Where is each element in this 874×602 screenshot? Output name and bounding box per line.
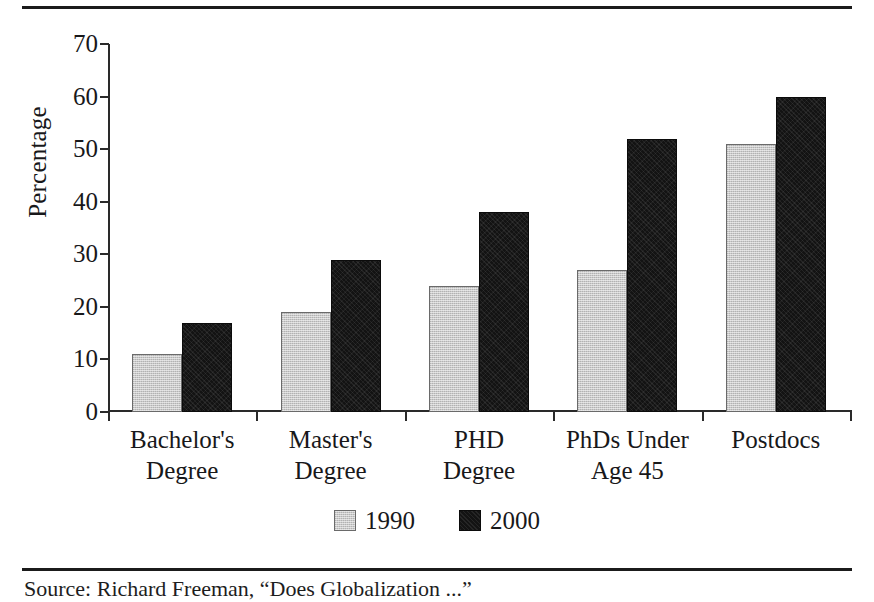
x-axis-category-label: PhDs UnderAge 45: [553, 424, 701, 486]
bottom-horizontal-rule: [22, 568, 852, 571]
source-caption: Source: Richard Freeman, “Does Globaliza…: [24, 576, 854, 602]
x-axis-category-label: Bachelor'sDegree: [108, 424, 256, 486]
category-label-line2: Degree: [108, 455, 256, 486]
category-label-line2: Degree: [256, 455, 404, 486]
category-label-line1: Bachelor's: [108, 424, 256, 455]
y-axis-tick-label: 10: [54, 346, 98, 371]
x-axis-tick-mark: [256, 412, 258, 421]
x-axis-tick-mark: [405, 412, 407, 421]
bar-2000-2: [331, 260, 381, 412]
y-axis-tick-label: 0: [54, 399, 98, 424]
bar-1990-2: [281, 312, 331, 412]
y-axis-tick-label: 20: [54, 294, 98, 319]
category-label-line1: Master's: [256, 424, 404, 455]
y-axis-tick-label: 60: [54, 84, 98, 109]
black-swatch-icon: [459, 510, 481, 531]
category-label-line1: Postdocs: [702, 424, 850, 455]
y-axis-tick-label: 70: [54, 31, 98, 56]
bar-2000-3: [479, 212, 529, 412]
y-axis-tick-label: 40: [54, 189, 98, 214]
bar-2000-4: [627, 139, 677, 412]
category-label-line1: PHD: [405, 424, 553, 455]
legend-item-1990: 1990: [334, 508, 415, 533]
x-axis-category-label: Postdocs: [702, 424, 850, 455]
category-label-line2: Age 45: [553, 455, 701, 486]
x-axis-tick-mark: [850, 412, 852, 421]
legend-item-2000: 2000: [459, 508, 540, 533]
x-axis-category-label: PHDDegree: [405, 424, 553, 486]
category-label-line1: PhDs Under: [553, 424, 701, 455]
plot-area: [108, 44, 850, 412]
y-axis-tick-labels: 706050403020100: [44, 0, 98, 583]
gray-swatch-icon: [334, 510, 356, 531]
top-horizontal-rule: [22, 6, 852, 9]
x-axis-tick-mark: [553, 412, 555, 421]
legend-label: 2000: [490, 508, 540, 533]
chart-legend: 19902000: [0, 508, 874, 533]
x-axis-category-label: Master'sDegree: [256, 424, 404, 486]
legend-label: 1990: [365, 508, 415, 533]
category-label-line2: Degree: [405, 455, 553, 486]
x-axis-tick-mark: [702, 412, 704, 421]
bar-1990-3: [429, 286, 479, 412]
x-axis-tick-mark: [108, 412, 110, 421]
bar-2000-1: [182, 323, 232, 412]
bar-1990-1: [132, 354, 182, 412]
bar-1990-5: [726, 144, 776, 412]
y-axis-tick-label: 30: [54, 241, 98, 266]
y-axis-title: Percentage: [24, 52, 52, 272]
bar-1990-4: [577, 270, 627, 412]
y-axis-tick-label: 50: [54, 136, 98, 161]
bar-2000-5: [776, 97, 826, 412]
